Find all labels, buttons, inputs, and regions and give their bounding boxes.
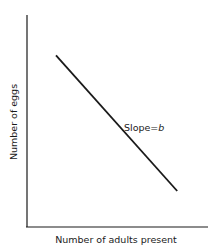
y-axis-label: Number of eggs: [8, 84, 19, 160]
x-axis-label: Number of adults present: [55, 234, 177, 245]
slope-annotation: Slope=b: [124, 122, 164, 133]
slope-symbol: b: [158, 122, 164, 133]
slope-eq: =: [150, 122, 158, 133]
diagram: Slope=b Number of adults present Number …: [0, 0, 223, 246]
slope-label: Slope: [124, 122, 151, 133]
